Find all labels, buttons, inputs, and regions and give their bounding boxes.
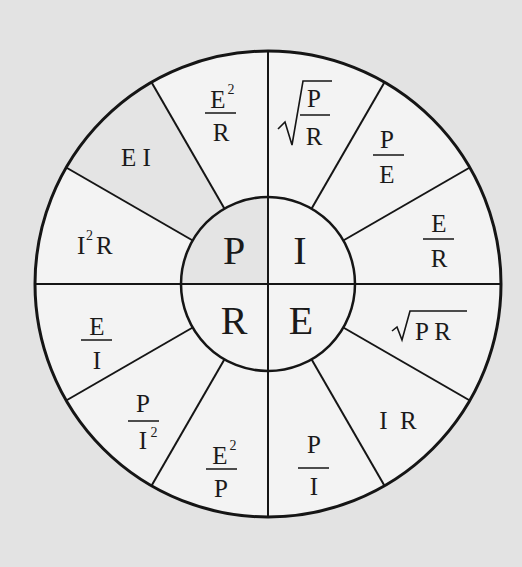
- svg-text:I R: I R: [379, 407, 417, 434]
- svg-text:E: E: [210, 86, 225, 113]
- svg-text:E: E: [379, 161, 394, 188]
- svg-text:2: 2: [230, 438, 237, 453]
- svg-text:R: R: [431, 245, 448, 272]
- svg-text:2: 2: [86, 228, 93, 243]
- svg-text:P: P: [214, 475, 228, 502]
- center-label-e: E: [289, 298, 313, 343]
- svg-text:E: E: [431, 210, 446, 237]
- svg-text:P: P: [380, 126, 394, 153]
- center-label-i: I: [293, 228, 306, 273]
- svg-text:R: R: [96, 232, 113, 259]
- svg-text:R: R: [306, 123, 323, 150]
- formula-ir: I R: [379, 407, 417, 434]
- center-label-p: P: [223, 228, 245, 273]
- svg-text:E: E: [89, 313, 104, 340]
- pire-wheel-diagram: P I R E E I E 2 R I 2 R P R P E E R P R …: [0, 0, 522, 567]
- svg-text:I: I: [139, 427, 147, 454]
- svg-text:2: 2: [151, 425, 158, 440]
- svg-text:I: I: [93, 347, 101, 374]
- svg-text:I: I: [310, 473, 318, 500]
- center-label-r: R: [221, 298, 248, 343]
- svg-text:E: E: [212, 442, 227, 469]
- svg-text:P: P: [136, 390, 150, 417]
- svg-text:R: R: [213, 119, 230, 146]
- formula-ei: E I: [121, 144, 151, 171]
- svg-text:2: 2: [228, 82, 235, 97]
- svg-text:I: I: [77, 232, 85, 259]
- svg-text:P: P: [307, 85, 321, 112]
- svg-text:P: P: [307, 431, 321, 458]
- svg-text:P R: P R: [415, 318, 451, 345]
- svg-text:E I: E I: [121, 144, 151, 171]
